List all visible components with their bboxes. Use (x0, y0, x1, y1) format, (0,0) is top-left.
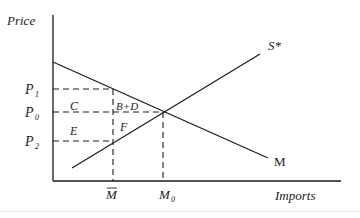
svg-text:P: P (24, 82, 34, 97)
svg-text:0: 0 (171, 195, 175, 204)
svg-text:M: M (105, 187, 118, 202)
svg-text:1: 1 (35, 90, 39, 99)
import-demand-line (53, 62, 268, 158)
svg-text:M: M (158, 187, 171, 202)
area-label-f: F (119, 120, 128, 134)
area-label-e: E (69, 124, 78, 138)
price-label-p0: P 0 (24, 105, 39, 122)
import-quota-diagram: Price Imports S* M P 1 P 0 P 2 M M 0 C B… (0, 0, 360, 218)
quantity-label-m-bar: M (105, 187, 118, 202)
price-label-p1: P 1 (24, 82, 39, 99)
area-label-c: C (70, 99, 79, 113)
supply-label: S* (268, 38, 282, 53)
y-axis-label: Price (6, 13, 35, 28)
x-axis-label: Imports (274, 188, 315, 203)
demand-label: M (274, 154, 286, 169)
area-label-bd: B+D (116, 100, 138, 112)
foreign-supply-line (72, 54, 260, 168)
price-label-p2: P 2 (24, 134, 39, 151)
svg-text:2: 2 (35, 142, 39, 151)
svg-text:0: 0 (35, 113, 39, 122)
bottom-divider (0, 211, 360, 212)
svg-text:P: P (24, 105, 34, 120)
quantity-label-m0: M 0 (158, 187, 175, 204)
svg-text:P: P (24, 134, 34, 149)
